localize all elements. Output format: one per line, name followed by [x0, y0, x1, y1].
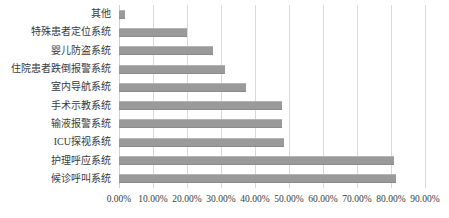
x-tick-label: 90.00%	[410, 192, 439, 206]
category-label: 候诊呼叫系统	[51, 173, 111, 184]
bar	[119, 101, 282, 110]
value-axis: 0.00%10.00%20.00%30.00%40.00%50.00%60.00…	[119, 192, 425, 208]
bar	[119, 138, 284, 147]
x-tick-label: 70.00%	[342, 192, 371, 206]
plot-area	[119, 5, 425, 188]
x-tick-label: 30.00%	[206, 192, 235, 206]
bar	[119, 65, 225, 74]
bar-chart: 其他特殊患者定位系统婴儿防盗系统住院患者跌倒报警系统室内导航系统手术示教系统输液…	[0, 0, 449, 218]
bar	[119, 119, 282, 128]
category-label: ICU探视系统	[54, 136, 111, 147]
gridline	[425, 5, 426, 188]
category-label: 输液报警系统	[51, 118, 111, 129]
x-tick-label: 50.00%	[274, 192, 303, 206]
category-axis: 其他特殊患者定位系统婴儿防盗系统住院患者跌倒报警系统室内导航系统手术示教系统输液…	[0, 5, 115, 188]
x-tick-label: 20.00%	[172, 192, 201, 206]
bar-row	[119, 60, 425, 78]
bar-row	[119, 170, 425, 188]
category-label: 室内导航系统	[51, 81, 111, 92]
category-label: 其他	[91, 8, 111, 19]
bar-row	[119, 78, 425, 96]
category-label: 住院患者跌倒报警系统	[11, 63, 111, 74]
x-tick-label: 80.00%	[376, 192, 405, 206]
bar-row	[119, 42, 425, 60]
bar-row	[119, 133, 425, 151]
x-tick-label: 40.00%	[240, 192, 269, 206]
bar-row	[119, 97, 425, 115]
bar-row	[119, 115, 425, 133]
bar	[119, 28, 187, 37]
bar	[119, 156, 394, 165]
bar	[119, 10, 125, 19]
bar-row	[119, 23, 425, 41]
category-label: 护理呼应系统	[51, 155, 111, 166]
category-label: 手术示教系统	[51, 100, 111, 111]
bars-layer	[119, 5, 425, 188]
x-tick-label: 60.00%	[308, 192, 337, 206]
category-label: 特殊患者定位系统	[31, 26, 111, 37]
x-tick-label: 10.00%	[138, 192, 167, 206]
bar-row	[119, 5, 425, 23]
x-tick-label: 0.00%	[107, 192, 132, 206]
bar	[119, 46, 213, 55]
bar	[119, 174, 396, 183]
bar-row	[119, 151, 425, 169]
category-label: 婴儿防盗系统	[51, 45, 111, 56]
bar	[119, 83, 246, 92]
